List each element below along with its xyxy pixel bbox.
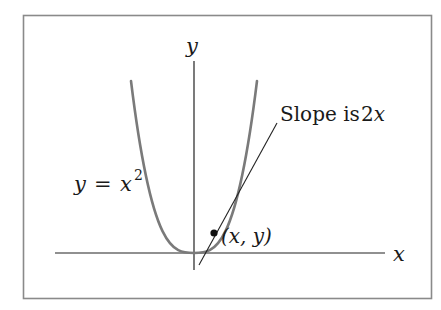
eq-x: x: [120, 172, 132, 196]
slope-variable: x: [374, 102, 385, 126]
parabola-tangent-diagram: y x y = x 2 Slope is 2x (x, y): [0, 0, 441, 310]
diagram-frame: [24, 16, 432, 299]
tangent-point-dot: [210, 229, 217, 236]
eq-y: y: [73, 172, 87, 196]
point-label: (x, y): [221, 224, 272, 248]
y-axis-label: y: [185, 34, 199, 58]
eq-equals: =: [94, 172, 112, 196]
curve-equation-label: y = x 2: [73, 167, 143, 196]
slope-label: Slope is 2x: [280, 102, 385, 126]
slope-text: Slope is: [280, 102, 360, 126]
x-axis-label: x: [393, 242, 405, 266]
eq-exponent: 2: [134, 167, 143, 183]
slope-math: 2x: [361, 102, 385, 126]
slope-coefficient: 2: [361, 102, 374, 126]
